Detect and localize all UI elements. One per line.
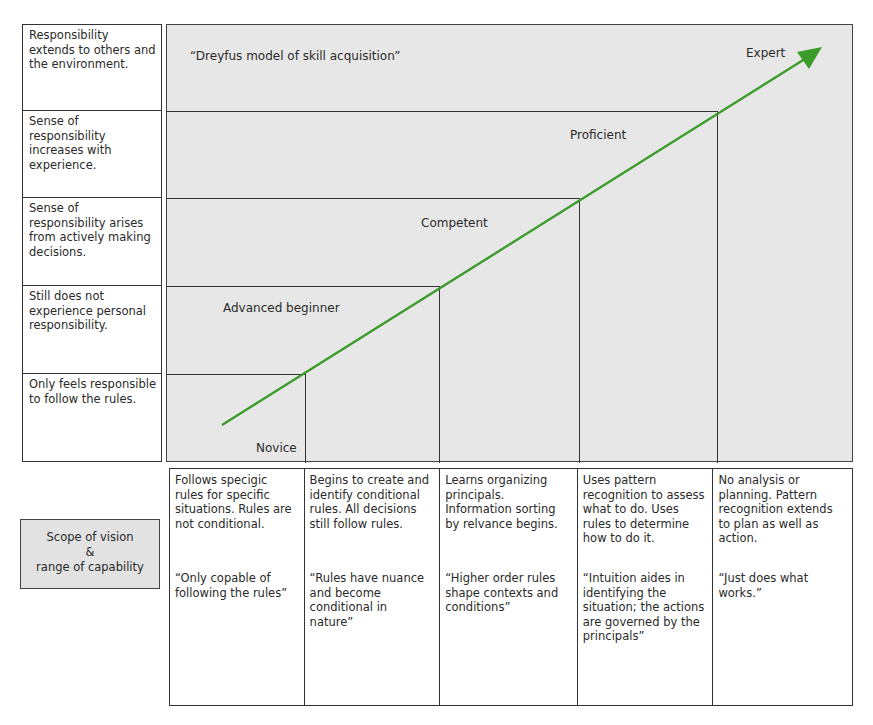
capability-col-advanced-beginner: Begins to create and identify conditiona…	[305, 469, 441, 705]
capability-quote: “Only copable of following the rules”	[175, 571, 299, 600]
capability-quote: “Intuition aides in identifying the situ…	[583, 571, 708, 644]
capability-description: Begins to create and identify conditiona…	[310, 473, 435, 571]
capability-col-novice: Follows specigic rules for specific situ…	[170, 469, 305, 705]
capability-description: Follows specigic rules for specific situ…	[175, 473, 299, 571]
capability-description: Learns organizing principals. Informatio…	[445, 473, 572, 571]
scope-line-2: &	[21, 545, 159, 560]
capability-quote: “Rules have nuance and become conditiona…	[310, 571, 435, 629]
capability-col-competent: Learns organizing principals. Informatio…	[440, 469, 578, 705]
scope-line-1: Scope of vision	[21, 530, 159, 545]
capability-table: Follows specigic rules for specific situ…	[169, 468, 853, 706]
capability-quote: “Just does what works.”	[718, 571, 847, 600]
capability-col-proficient: Uses pattern recognition to assess what …	[578, 469, 714, 705]
capability-quote: “Higher order rules shape contexts and c…	[445, 571, 572, 615]
capability-col-expert: No analysis or planning. Pattern recogni…	[713, 469, 852, 705]
scope-line-3: range of capability	[21, 560, 159, 575]
capability-description: No analysis or planning. Pattern recogni…	[718, 473, 847, 571]
scope-of-vision-label: Scope of vision & range of capability	[20, 519, 160, 589]
capability-description: Uses pattern recognition to assess what …	[583, 473, 708, 571]
